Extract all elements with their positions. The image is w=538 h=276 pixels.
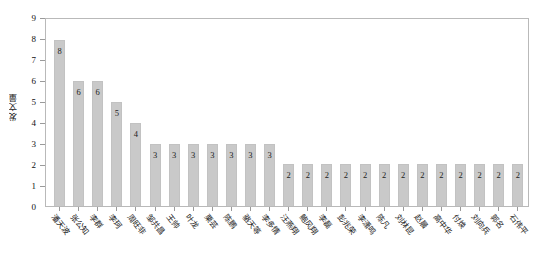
- x-axis-tick-mark: [193, 207, 194, 211]
- x-axis-label[interactable]: 叶龙: [183, 213, 200, 231]
- bar[interactable]: 2: [474, 164, 485, 206]
- bar-slot: 3: [260, 19, 279, 206]
- bar[interactable]: 2: [398, 164, 409, 206]
- bar[interactable]: 2: [455, 164, 466, 206]
- x-axis-label[interactable]: 李潇鸣: [355, 213, 377, 237]
- bar[interactable]: 2: [493, 164, 504, 206]
- bar[interactable]: 3: [169, 144, 180, 206]
- bar[interactable]: 5: [111, 102, 122, 206]
- bar-value-label: 2: [516, 171, 520, 180]
- x-label-slot: 郭名: [489, 212, 508, 276]
- x-axis-label[interactable]: 陈凡: [374, 213, 391, 231]
- y-axis-tick: 1: [0, 181, 45, 192]
- x-axis-label[interactable]: 赵晨: [412, 213, 429, 231]
- x-axis-label[interactable]: 王帅: [164, 213, 181, 231]
- bar[interactable]: 2: [302, 164, 313, 206]
- x-axis-tick-mark: [174, 207, 175, 211]
- bar-value-label: 3: [210, 151, 214, 160]
- x-axis-label[interactable]: 付焕: [450, 213, 467, 231]
- bars-container: 8665433333332222222222222: [46, 19, 528, 206]
- x-axis-label[interactable]: 石伟平: [507, 213, 529, 237]
- x-axis-tick-mark: [479, 207, 480, 211]
- bar-value-label: 2: [477, 171, 481, 180]
- x-axis-label[interactable]: 潘天波: [49, 213, 71, 237]
- x-axis-label[interactable]: 汪燕翔: [278, 213, 300, 237]
- x-axis-label[interactable]: 邹共昌: [145, 213, 167, 237]
- x-axis-label[interactable]: 周旺非: [126, 213, 148, 237]
- bar-slot: 3: [165, 19, 184, 206]
- bar[interactable]: 8: [54, 40, 65, 206]
- bar[interactable]: 2: [436, 164, 447, 206]
- x-label-slot: 李磊: [317, 212, 336, 276]
- x-axis-label[interactable]: 李磊: [317, 213, 334, 231]
- bar[interactable]: 6: [92, 81, 103, 206]
- x-axis-label[interactable]: 李群: [87, 213, 104, 231]
- x-label-slot: 李多情: [260, 212, 279, 276]
- x-axis-tick-mark: [250, 207, 251, 211]
- x-axis-tick-mark: [116, 207, 117, 211]
- x-axis-tick-mark: [212, 207, 213, 211]
- bar[interactable]: 2: [283, 164, 294, 206]
- x-axis-label[interactable]: 刘向兵: [469, 213, 491, 237]
- x-axis-labels: 潘天波张公知李群李珂周旺非邹共昌王帅叶龙栗芸陈鹏骆天等李多情汪燕翔鲍风翔李磊彭兆…: [46, 212, 528, 276]
- x-axis-tick-mark: [460, 207, 461, 211]
- bar-slot: 2: [394, 19, 413, 206]
- x-label-slot: 叶龙: [184, 212, 203, 276]
- bar[interactable]: 2: [512, 164, 523, 206]
- bar[interactable]: 3: [226, 144, 237, 206]
- x-label-slot: 邹共昌: [145, 212, 164, 276]
- bar[interactable]: 2: [417, 164, 428, 206]
- y-axis-tick: 3: [0, 139, 45, 150]
- x-axis-label[interactable]: 彭兆荣: [336, 213, 358, 237]
- x-axis-tick-mark: [498, 207, 499, 211]
- bar-value-label: 4: [134, 130, 138, 139]
- bar[interactable]: 3: [264, 144, 275, 206]
- x-axis-tick-mark: [517, 207, 518, 211]
- bar[interactable]: 3: [150, 144, 161, 206]
- x-axis-tick-mark: [307, 207, 308, 211]
- x-axis-tick-mark: [403, 207, 404, 211]
- bar[interactable]: 6: [73, 81, 84, 206]
- y-axis-tick-label: 1: [32, 181, 37, 192]
- bar-slot: 2: [336, 19, 355, 206]
- x-axis-label[interactable]: 栗芸: [202, 213, 219, 231]
- x-axis-tick-mark: [422, 207, 423, 211]
- bar[interactable]: 2: [321, 164, 332, 206]
- x-axis-tick-mark: [231, 207, 232, 211]
- x-axis-label[interactable]: 骆天等: [240, 213, 262, 237]
- y-axis-tick-label: 7: [32, 55, 37, 66]
- bar[interactable]: 3: [188, 144, 199, 206]
- bar[interactable]: 2: [379, 164, 390, 206]
- x-axis-label[interactable]: 李多情: [259, 213, 281, 237]
- x-axis-tick-mark: [59, 207, 60, 211]
- bar-slot: 4: [126, 19, 145, 206]
- bar[interactable]: 2: [360, 164, 371, 206]
- bar-chart: 发文量 0123456789 8665433333332222222222222…: [0, 0, 538, 276]
- bar-slot: 2: [489, 19, 508, 206]
- x-axis-tick-mark: [345, 207, 346, 211]
- bar-value-label: 3: [153, 151, 157, 160]
- bar[interactable]: 3: [207, 144, 218, 206]
- x-label-slot: 栗芸: [203, 212, 222, 276]
- x-axis-label[interactable]: 鲍风翔: [297, 213, 319, 237]
- x-axis-label[interactable]: 郭名: [488, 213, 505, 231]
- x-label-slot: 陈鹏: [222, 212, 241, 276]
- bar-value-label: 6: [96, 88, 100, 97]
- bar[interactable]: 2: [340, 164, 351, 206]
- x-label-slot: 刘向兵: [470, 212, 489, 276]
- x-axis-label[interactable]: 李珂: [107, 213, 124, 231]
- bar-value-label: 2: [287, 171, 291, 180]
- bar-value-label: 2: [420, 171, 424, 180]
- x-axis-tick-mark: [135, 207, 136, 211]
- x-axis-label[interactable]: 张公知: [68, 213, 90, 237]
- x-axis-label[interactable]: 刘林昆: [393, 213, 415, 237]
- x-label-slot: 汪燕翔: [279, 212, 298, 276]
- y-axis-tick: 0: [0, 202, 45, 213]
- bar[interactable]: 4: [130, 123, 141, 206]
- x-axis-label[interactable]: 陈鹏: [221, 213, 238, 231]
- y-axis-tick: 6: [0, 76, 45, 87]
- bar-slot: 3: [184, 19, 203, 206]
- x-axis-label[interactable]: 高中华: [431, 213, 453, 237]
- bar-value-label: 2: [306, 171, 310, 180]
- bar[interactable]: 3: [245, 144, 256, 206]
